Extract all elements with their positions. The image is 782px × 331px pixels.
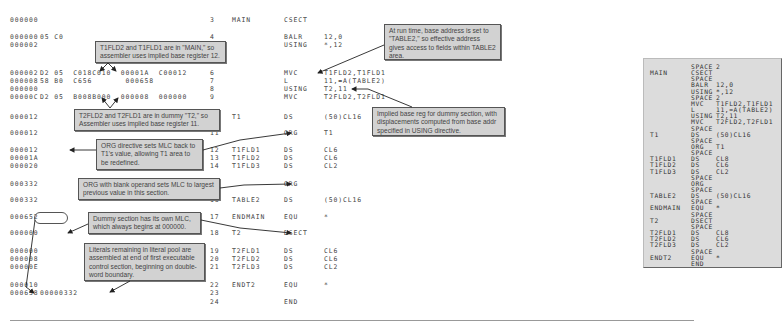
listing-loc: 000012 bbox=[10, 113, 39, 121]
listing-op: DSECT bbox=[284, 229, 308, 237]
listing-loc: 000020 bbox=[10, 162, 39, 170]
listing-operand: *,12 bbox=[324, 41, 343, 49]
listing-stmt: 12 bbox=[210, 146, 220, 154]
listing-op: DS bbox=[284, 113, 294, 121]
circled-location-000652 bbox=[34, 212, 68, 224]
listing-stmt: 18 bbox=[210, 229, 220, 237]
listing-op: L bbox=[284, 77, 289, 85]
listing-stmt: 23 bbox=[210, 289, 220, 297]
listing-obj: 58 B0 C656 000658 bbox=[40, 77, 154, 85]
listing-loc: 000000 bbox=[10, 85, 39, 93]
listing-label: MAIN bbox=[232, 16, 251, 24]
listing-op: EQU bbox=[284, 281, 298, 289]
listing-loc: 000002 bbox=[10, 41, 39, 49]
source-label: MAIN bbox=[650, 70, 668, 76]
listing-stmt: 22 bbox=[210, 281, 220, 289]
listing-loc: 00001A bbox=[10, 154, 39, 162]
listing-loc: 000008 bbox=[10, 77, 39, 85]
listing-loc: 000000 bbox=[10, 229, 39, 237]
listing-operand: CL6 bbox=[324, 247, 338, 255]
callout-base-register-11: T2FLD2 and T2FLD1 are in dummy "T2," so … bbox=[74, 109, 220, 131]
listing-loc: 000000 bbox=[10, 16, 39, 24]
listing-operand: 11,=A(TABLE2) bbox=[324, 77, 386, 85]
listing-stmt: 14 bbox=[210, 162, 220, 170]
callout-literal-pool: Literals remaining in literal pool are a… bbox=[84, 243, 205, 281]
listing-op: MVC bbox=[284, 69, 298, 77]
listing-label: T1FLD2 bbox=[232, 154, 261, 162]
listing-stmt: 20 bbox=[210, 255, 220, 263]
listing-op: DS bbox=[284, 154, 294, 162]
listing-op: EQU bbox=[284, 213, 298, 221]
source-operand: CL2 bbox=[716, 169, 729, 175]
listing-loc: 00000C bbox=[10, 93, 39, 101]
listing-op: DS bbox=[284, 247, 294, 255]
listing-stmt: 4 bbox=[210, 33, 215, 41]
listing-operand: T1FLD2,T1FLD1 bbox=[324, 69, 386, 77]
source-label: T2FLD3 bbox=[650, 242, 676, 248]
listing-op: ORG bbox=[284, 129, 298, 137]
source-operand: T2FLD2,T2FLD1 bbox=[716, 119, 773, 125]
listing-operand: (50)CL16 bbox=[324, 196, 362, 204]
listing-operand: T2,11 bbox=[324, 85, 348, 93]
listing-operand: 12,0 bbox=[324, 33, 343, 41]
source-operand: (50)CL16 bbox=[716, 193, 751, 199]
listing-loc: 000658 bbox=[10, 289, 39, 297]
source-label: TABLE2 bbox=[650, 193, 676, 199]
listing-obj: 05 C0 bbox=[40, 33, 64, 41]
source-label: ENDMAIN bbox=[650, 205, 681, 211]
listing-operand: CL2 bbox=[324, 162, 338, 170]
source-op: END bbox=[691, 261, 704, 267]
callout-org-blank-operand: ORG with blank operand sets MLC to large… bbox=[78, 178, 220, 200]
listing-op: DS bbox=[284, 196, 294, 204]
listing-op: USING bbox=[284, 85, 308, 93]
listing-loc: 000002 bbox=[10, 69, 39, 77]
listing-label: ENDT2 bbox=[232, 281, 256, 289]
listing-label: T2FLD3 bbox=[232, 263, 261, 271]
source-operand: T1 bbox=[716, 144, 725, 150]
listing-operand: CL6 bbox=[324, 154, 338, 162]
listing-op: END bbox=[284, 298, 298, 306]
listing-stmt: 3 bbox=[210, 16, 215, 24]
listing-op: USING bbox=[284, 41, 308, 49]
listing-operand: CL2 bbox=[324, 263, 338, 271]
listing-loc: 00000E bbox=[10, 263, 39, 271]
listing-stmt: 19 bbox=[210, 247, 220, 255]
callout-org-directive: ORG directive sets MLC back to T1's valu… bbox=[96, 139, 203, 170]
listing-label: T1FLD1 bbox=[232, 146, 261, 154]
listing-op: DS bbox=[284, 162, 294, 170]
listing-loc: 000008 bbox=[10, 255, 39, 263]
listing-loc: 000000 bbox=[10, 33, 39, 41]
listing-stmt: 24 bbox=[210, 298, 220, 306]
source-operand: * bbox=[716, 205, 720, 211]
listing-operand: * bbox=[324, 281, 329, 289]
listing-loc: 000010 bbox=[10, 281, 39, 289]
listing-operand: CL6 bbox=[324, 255, 338, 263]
listing-loc: 000000 bbox=[10, 247, 39, 255]
listing-stmt: 13 bbox=[210, 154, 220, 162]
listing-obj: D2 05 C018C010 00001A C00012 bbox=[40, 69, 187, 77]
source-label: T1FLD3 bbox=[650, 169, 676, 175]
callout-implied-base-dummy: Implied base reg for dummy section, with… bbox=[372, 107, 505, 136]
listing-stmt: 7 bbox=[210, 77, 215, 85]
listing-operand: * bbox=[324, 213, 329, 221]
source-label: T2 bbox=[650, 218, 659, 224]
listing-op: DS bbox=[284, 255, 294, 263]
listing-label: T2 bbox=[232, 229, 242, 237]
listing-stmt: 17 bbox=[210, 213, 220, 221]
callout-runtime-base-address: At run time, base address is set to "TAB… bbox=[384, 24, 501, 60]
listing-loc: 000012 bbox=[10, 146, 39, 154]
listing-label: T2FLD1 bbox=[232, 247, 261, 255]
listing-stmt: 6 bbox=[210, 69, 215, 77]
listing-operand: T2FLD2,T2FLD1 bbox=[324, 93, 386, 101]
source-operand: 2 bbox=[716, 64, 720, 70]
bottom-rule bbox=[10, 320, 694, 321]
source-operand: * bbox=[716, 255, 720, 261]
listing-op: DS bbox=[284, 263, 294, 271]
source-operand: (50)CL16 bbox=[716, 132, 751, 138]
listing-obj: D2 05 B008B000 000008 000000 bbox=[40, 93, 187, 101]
listing-label: T2FLD2 bbox=[232, 255, 261, 263]
source-label: T1 bbox=[650, 132, 659, 138]
listing-op: MVC bbox=[284, 93, 298, 101]
source-label: ENDT2 bbox=[650, 255, 672, 261]
listing-op: ORG bbox=[284, 180, 298, 188]
